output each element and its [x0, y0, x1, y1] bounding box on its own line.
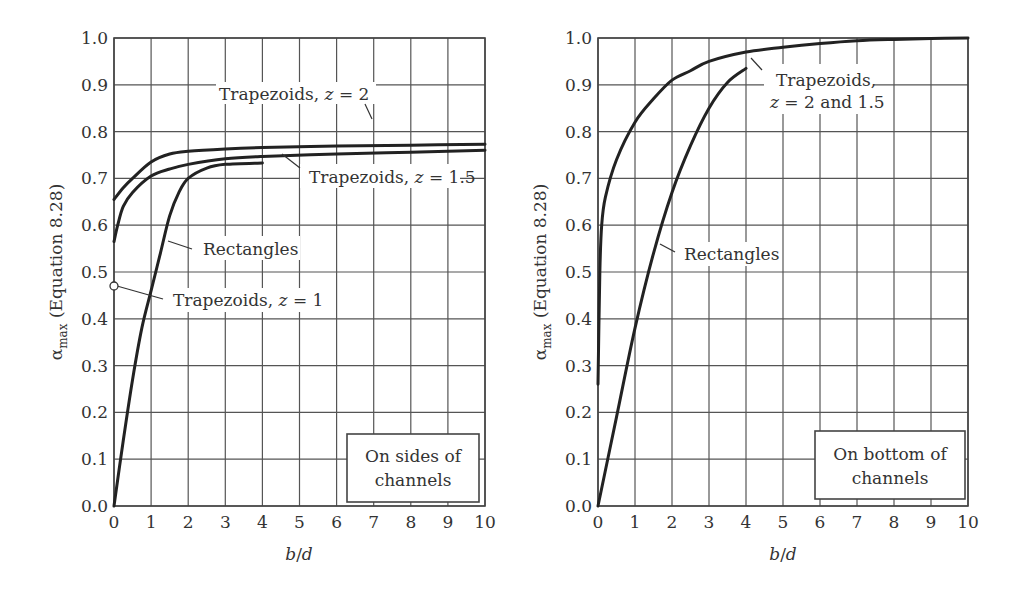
y-tick-label: 0.2	[565, 402, 592, 422]
x-tick-label: 6	[331, 512, 342, 532]
y-tick-label: 0.3	[81, 356, 108, 376]
y-tick-label: 0.8	[81, 122, 108, 142]
box-label-line1: On sides of	[365, 446, 463, 466]
box-label-line1: On bottom of	[833, 444, 948, 464]
y-tick-label: 0.7	[81, 168, 108, 188]
label-trapezoids-z15: Trapezoids, z = 1.5	[309, 167, 476, 187]
x-tick-label: 0	[593, 512, 604, 532]
label-trapezoids: Trapezoids,	[776, 70, 876, 90]
y-tick-label: 0.1	[565, 449, 592, 469]
label-trapezoids-z: z = 2 and 1.5	[769, 92, 885, 112]
y-tick-label: 0.9	[565, 75, 592, 95]
x-tick-label: 5	[294, 512, 305, 532]
x-tick-label: 2	[183, 512, 194, 532]
y-tick-label: 1.0	[565, 28, 592, 48]
leader-line	[117, 286, 163, 299]
y-tick-label: 0.6	[565, 215, 592, 235]
x-tick-label: 4	[741, 512, 752, 532]
y-tick-label: 0.2	[81, 402, 108, 422]
y-tick-label: 0.1	[81, 449, 108, 469]
x-tick-label: 1	[630, 512, 641, 532]
label-rectangles: Rectangles	[203, 239, 298, 259]
left-chart: 012345678910 0.00.10.20.30.40.50.60.70.8…	[46, 28, 496, 564]
x-tick-label: 3	[220, 512, 231, 532]
x-tick-label: 1	[146, 512, 157, 532]
left-x-ticks: 012345678910	[109, 512, 496, 532]
x-tick-label: 0	[109, 512, 120, 532]
y-tick-label: 0.9	[81, 75, 108, 95]
x-tick-label: 4	[257, 512, 268, 532]
trapezoid-z1-point-marker	[110, 282, 118, 290]
leader-line	[660, 244, 675, 252]
y-tick-label: 0.5	[81, 262, 108, 282]
x-tick-label: 5	[778, 512, 789, 532]
x-tick-label: 9	[926, 512, 937, 532]
panel-box-label	[815, 431, 965, 499]
x-tick-label: 8	[889, 512, 900, 532]
x-tick-label: 6	[815, 512, 826, 532]
y-tick-label: 0.3	[565, 356, 592, 376]
x-tick-label: 3	[704, 512, 715, 532]
label-trapezoids-z2: Trapezoids, z = 2	[219, 84, 369, 104]
box-label-line2: channels	[375, 470, 452, 490]
y-tick-label: 0.8	[565, 122, 592, 142]
x-tick-label: 10	[474, 512, 496, 532]
x-tick-label: 9	[442, 512, 453, 532]
right-chart: 012345678910 0.00.10.20.30.40.50.60.70.8…	[530, 28, 979, 564]
y-tick-label: 0.0	[565, 496, 592, 516]
x-tick-label: 10	[957, 512, 979, 532]
right-x-ticks: 012345678910	[593, 512, 979, 532]
y-tick-label: 0.4	[81, 309, 108, 329]
label-trapezoids-z1: Trapezoids, z = 1	[173, 290, 323, 310]
leader-line	[365, 104, 372, 119]
y-tick-label: 0.6	[81, 215, 108, 235]
x-tick-label: 7	[852, 512, 863, 532]
left-y-ticks: 0.00.10.20.30.40.50.60.70.80.91.0	[81, 28, 108, 516]
leader-line	[751, 58, 762, 70]
panel-box-label	[347, 434, 479, 502]
x-tick-label: 2	[667, 512, 678, 532]
y-tick-label: 0.7	[565, 168, 592, 188]
x-axis-label: b/d	[285, 544, 313, 564]
y-axis-label: αmax (Equation 8.28)	[530, 184, 554, 361]
y-tick-label: 0.0	[81, 496, 108, 516]
y-tick-label: 1.0	[81, 28, 108, 48]
figure: 012345678910 0.00.10.20.30.40.50.60.70.8…	[0, 0, 1018, 590]
box-label-line2: channels	[852, 468, 929, 488]
y-tick-label: 0.5	[565, 262, 592, 282]
y-axis-label: αmax (Equation 8.28)	[46, 184, 70, 361]
x-tick-label: 7	[368, 512, 379, 532]
label-rectangles: Rectangles	[684, 244, 779, 264]
x-tick-label: 8	[405, 512, 416, 532]
x-axis-label: b/d	[769, 544, 797, 564]
right-y-ticks: 0.00.10.20.30.40.50.60.70.80.91.0	[565, 28, 592, 516]
y-tick-label: 0.4	[565, 309, 592, 329]
